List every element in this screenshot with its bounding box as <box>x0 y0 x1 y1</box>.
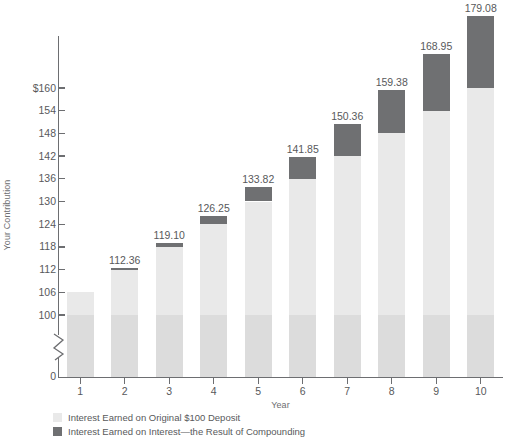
x-axis-tick <box>436 378 437 384</box>
x-axis-tick <box>347 378 348 384</box>
y-axis-tick <box>59 178 65 179</box>
bar-segment-compound-interest <box>467 16 494 88</box>
bar-value-label: 126.25 <box>184 202 244 214</box>
y-axis-tick-label: 136 <box>0 173 56 184</box>
bar-value-label: 159.38 <box>362 76 422 88</box>
x-axis-tick-label: 2 <box>105 385 145 397</box>
bar-value-label: 141.85 <box>273 143 333 155</box>
x-axis-tick <box>80 378 81 384</box>
compound-interest-chart: Your Contribution 1001061121181241301361… <box>0 0 511 437</box>
y-axis-tick <box>59 246 65 247</box>
bar-segment-principal <box>467 315 494 377</box>
bar-segment-simple-interest <box>200 224 227 315</box>
x-axis-tick-label: 3 <box>149 385 189 397</box>
x-axis-tick <box>213 378 214 384</box>
bar-segment-simple-interest <box>423 111 450 315</box>
y-axis-tick-label: 112 <box>0 264 56 275</box>
y-axis-tick <box>59 110 65 111</box>
y-axis-tick-label: 124 <box>0 219 56 230</box>
y-axis-tick-label: 118 <box>0 241 56 252</box>
x-axis-tick-label: 7 <box>327 385 367 397</box>
bar-segment-compound-interest <box>289 157 316 179</box>
legend-label-simple-interest: Interest Earned on Original $100 Deposit <box>68 412 240 424</box>
bar-segment-simple-interest <box>111 270 138 315</box>
y-axis-tick-label: $160 <box>0 83 56 94</box>
x-axis-title: Year <box>58 400 503 410</box>
bar-value-label: 150.36 <box>317 110 377 122</box>
y-axis-tick-label: 148 <box>0 128 56 139</box>
bar-segment-principal <box>334 315 361 377</box>
bar-value-label: 133.82 <box>228 173 288 185</box>
x-axis-tick-label: 10 <box>461 385 501 397</box>
bar-value-label: 168.95 <box>406 40 466 52</box>
y-axis-tick-label: 142 <box>0 151 56 162</box>
legend-item-simple-interest: Interest Earned on Original $100 Deposit <box>53 411 305 424</box>
x-axis-tick <box>169 378 170 384</box>
x-axis-tick <box>302 378 303 384</box>
bar-value-label: 112.36 <box>95 254 155 266</box>
x-axis-tick-label: 5 <box>238 385 278 397</box>
y-axis-zero-label: 0 <box>0 371 56 382</box>
bar-segment-principal <box>156 315 183 377</box>
y-axis-line <box>58 36 59 335</box>
bar-value-label: 119.10 <box>139 229 199 241</box>
bar-value-label: 179.08 <box>451 2 511 14</box>
y-axis-tick-label: 100 <box>0 310 56 321</box>
y-axis-tick <box>59 224 65 225</box>
y-axis-tick <box>59 314 65 315</box>
legend-item-compound-interest: Interest Earned on Interest—the Result o… <box>53 425 305 437</box>
y-axis-tick-label: 154 <box>0 105 56 116</box>
bar-segment-compound-interest <box>378 90 405 133</box>
legend-label-compound-interest: Interest Earned on Interest—the Result o… <box>68 426 305 437</box>
bar-segment-principal <box>67 315 94 377</box>
legend-swatch-compound-interest <box>53 427 62 436</box>
y-axis-tick <box>59 133 65 134</box>
bar-segment-principal <box>111 315 138 377</box>
x-axis-tick <box>258 378 259 384</box>
bar-segment-compound-interest <box>334 124 361 156</box>
bar-segment-principal <box>289 315 316 377</box>
bar-segment-simple-interest <box>67 292 94 315</box>
y-axis-tick <box>59 201 65 202</box>
bar-segment-compound-interest <box>111 268 138 269</box>
bar-segment-principal <box>245 315 272 377</box>
x-axis-tick-label: 8 <box>372 385 412 397</box>
legend-swatch-simple-interest <box>53 413 62 422</box>
bar-segment-compound-interest <box>245 187 272 201</box>
bar-segment-compound-interest <box>423 54 450 111</box>
x-axis-tick-label: 1 <box>60 385 100 397</box>
bar-segment-simple-interest <box>245 202 272 316</box>
x-axis-tick-label: 4 <box>194 385 234 397</box>
bar-segment-simple-interest <box>378 133 405 315</box>
x-axis-tick-label: 6 <box>283 385 323 397</box>
y-axis-tick-label: 106 <box>0 287 56 298</box>
bar-segment-simple-interest <box>156 247 183 315</box>
bar-segment-compound-interest <box>200 216 227 225</box>
bar-segment-compound-interest <box>156 243 183 247</box>
x-axis-tick-label: 9 <box>416 385 456 397</box>
chart-legend: Interest Earned on Original $100 Deposit… <box>53 411 305 437</box>
x-axis-tick <box>480 378 481 384</box>
y-axis-tick <box>59 87 65 88</box>
bar-segment-principal <box>378 315 405 377</box>
x-axis-tick <box>124 378 125 384</box>
y-axis-tick-label: 130 <box>0 196 56 207</box>
bar-segment-principal <box>200 315 227 377</box>
y-axis-tick <box>59 292 65 293</box>
bar-segment-principal <box>423 315 450 377</box>
bar-segment-simple-interest <box>289 179 316 315</box>
bar-segment-simple-interest <box>467 88 494 315</box>
bar-segment-simple-interest <box>334 156 361 315</box>
y-axis-line-lower <box>58 358 59 378</box>
y-axis-tick <box>59 269 65 270</box>
y-axis-tick <box>59 155 65 156</box>
x-axis-tick <box>391 378 392 384</box>
